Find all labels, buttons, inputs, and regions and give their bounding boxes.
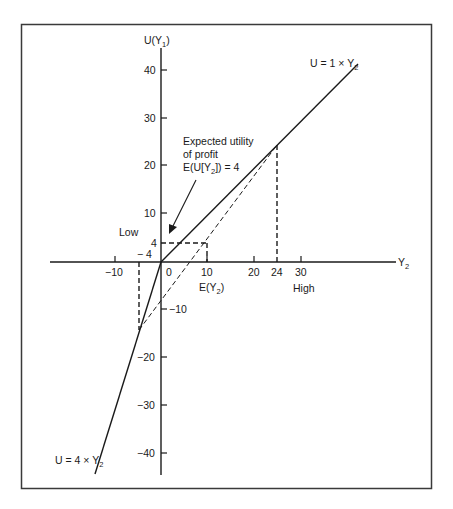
- utility-diagram: U(Y1) Y2 40 30 20 10 −10 −20 −30 −40 −10…: [0, 0, 453, 509]
- y-tick-minus-30: −30: [137, 399, 155, 411]
- upper-line-label: U = 1 × Y2: [310, 57, 358, 72]
- expected-utility-annotation-line1: Expected utility: [183, 135, 254, 147]
- x-tick-20: 20: [248, 266, 260, 278]
- x-tick-24: 24: [271, 266, 283, 278]
- x-tick-10: 10: [201, 266, 213, 278]
- low-label: Low: [119, 226, 139, 238]
- y-tick-minus-40: −40: [137, 447, 155, 459]
- y-tick-40: 40: [144, 64, 156, 76]
- y-tick-minus-20: −20: [137, 351, 155, 363]
- utility-line-lower: [95, 262, 161, 474]
- figure-frame: [22, 25, 432, 489]
- expected-utility-annotation-line2: of profit: [183, 148, 218, 160]
- y-tick-minus-10: −10: [169, 303, 187, 315]
- four-label: 4: [151, 237, 157, 249]
- y-tick-20: 20: [144, 159, 156, 171]
- y-tick-10: 10: [144, 207, 156, 219]
- lower-line-label: U = 4 × Y2: [55, 454, 103, 469]
- x-tick-30: 30: [295, 266, 307, 278]
- y-axis-label: U(Y1): [144, 34, 170, 49]
- x-tick-0: 0: [166, 266, 172, 278]
- minus-four-label: − 4: [137, 248, 152, 260]
- high-label: High: [293, 282, 315, 294]
- arrow-head-icon: [169, 224, 177, 234]
- x-axis-label: Y2: [398, 256, 409, 271]
- expected-value-label: E(Y2): [199, 281, 224, 296]
- y-tick-30: 30: [144, 112, 156, 124]
- expected-utility-annotation-line3: E(U[Y2]) = 4: [183, 161, 240, 176]
- annotation-arrow-shaft: [172, 180, 196, 228]
- x-tick-minus-10: −10: [105, 266, 123, 278]
